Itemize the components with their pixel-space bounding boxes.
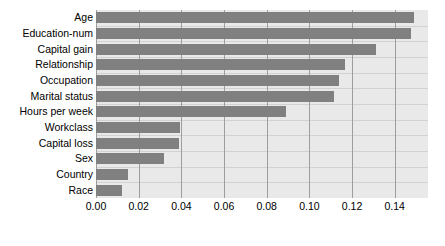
x-axis-tick-labels: 0.000.020.040.060.080.100.120.14 [0, 200, 445, 220]
row-separator-line [96, 26, 428, 27]
x-axis-tick-label: 0.08 [256, 200, 276, 212]
row-separator-line [96, 57, 428, 58]
bar [96, 59, 345, 70]
y-axis-label: Education-num [0, 28, 93, 39]
y-axis-label: Workclass [0, 122, 93, 133]
x-axis-tick-label: 0.10 [299, 200, 319, 212]
row-separator-line [96, 73, 428, 74]
bar [96, 106, 286, 117]
bar [96, 28, 411, 39]
y-axis-label: Hours per week [0, 106, 93, 117]
y-axis-category-labels: AgeEducation-numCapital gainRelationship… [0, 10, 93, 198]
x-axis-tick-label: 0.04 [171, 200, 191, 212]
x-axis-tick-label: 0.00 [86, 200, 106, 212]
y-axis-label: Race [0, 185, 93, 196]
feature-importance-bar-chart: AgeEducation-numCapital gainRelationship… [0, 0, 445, 246]
x-axis-tick-label: 0.02 [128, 200, 148, 212]
bar [96, 75, 339, 86]
x-axis-tick-label: 0.06 [214, 200, 234, 212]
bar [96, 169, 128, 180]
x-axis-tick-label: 0.14 [384, 200, 404, 212]
y-axis-label: Relationship [0, 59, 93, 70]
bar [96, 153, 164, 164]
y-axis-label: Occupation [0, 75, 93, 86]
x-axis-tick-label: 0.12 [342, 200, 362, 212]
bar [96, 12, 414, 23]
row-separator-line [96, 104, 428, 105]
row-separator-line [96, 151, 428, 152]
row-separator-line [96, 135, 428, 136]
y-axis-label: Capital loss [0, 138, 93, 149]
row-separator-line [96, 41, 428, 42]
bar [96, 122, 180, 133]
bar [96, 138, 179, 149]
y-axis-label: Marital status [0, 91, 93, 102]
bar [96, 44, 376, 55]
y-axis-label: Age [0, 12, 93, 23]
row-separator-line [96, 88, 428, 89]
plot-area [96, 10, 428, 198]
bar [96, 91, 334, 102]
row-separator-line [96, 120, 428, 121]
y-axis-label: Sex [0, 153, 93, 164]
row-separator-line [96, 167, 428, 168]
bar [96, 185, 122, 196]
row-separator-line [96, 182, 428, 183]
y-axis-label: Country [0, 169, 93, 180]
y-axis-label: Capital gain [0, 44, 93, 55]
